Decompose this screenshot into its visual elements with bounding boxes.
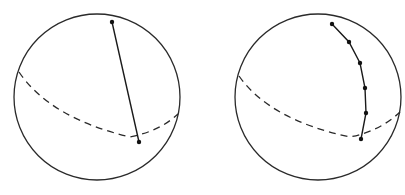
right-point-1 [330,22,334,26]
left-point-end [137,140,141,144]
left-sphere-outline [14,14,180,180]
right-point-3 [358,61,362,65]
left-equator-dashed [19,72,178,137]
right-point-6 [359,137,363,141]
left-point-start [110,20,114,24]
sphere-diagram [0,0,405,195]
right-sphere-outline [235,14,401,180]
right-point-5 [364,111,368,115]
right-point-4 [363,86,367,90]
right-point-2 [347,40,351,44]
left-straight-chord [112,22,139,142]
left-panel [14,14,180,180]
right-equator-dashed [239,76,400,137]
right-panel [235,14,401,180]
